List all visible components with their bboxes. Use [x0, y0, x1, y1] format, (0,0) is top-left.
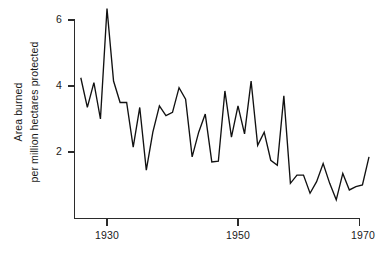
- y-axis-label-line2: per million hectares protected: [28, 42, 40, 183]
- y-tick-label-4: 4: [56, 79, 62, 91]
- chart-figure: Area burned per million hectares protect…: [0, 0, 392, 257]
- x-tick-label-1970: 1970: [351, 229, 375, 241]
- line-chart: Area burned per million hectares protect…: [0, 0, 392, 257]
- y-tick-label-2: 2: [56, 145, 62, 157]
- x-tick-label-1950: 1950: [226, 229, 250, 241]
- y-tick-label-6: 6: [56, 13, 62, 25]
- x-tick-label-1930: 1930: [95, 229, 119, 241]
- y-axis-label-line1: Area burned: [12, 83, 24, 142]
- data-series-line: [81, 8, 369, 199]
